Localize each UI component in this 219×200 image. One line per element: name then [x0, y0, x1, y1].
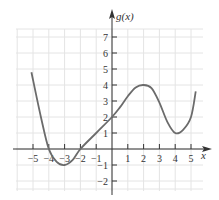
y-tick-label: −2 [97, 176, 108, 187]
y-tick-label: 5 [103, 64, 108, 75]
y-tick-label: 7 [103, 32, 108, 43]
grid [16, 29, 203, 191]
x-tick-label: 5 [189, 153, 194, 164]
y-tick-label: −1 [97, 160, 108, 171]
graph-of-g: −5−4−3−2−112345−2−11234567 g(x) x [0, 0, 219, 200]
x-axis-label: x [200, 149, 206, 161]
y-tick-label: 6 [103, 48, 108, 59]
x-tick-label: 2 [141, 153, 146, 164]
tick-labels: −5−4−3−2−112345−2−11234567 [28, 32, 194, 187]
x-tick-label: −5 [28, 153, 39, 164]
y-axis-label: g(x) [116, 10, 134, 23]
x-tick-label: 1 [125, 153, 130, 164]
g-curve [31, 72, 195, 165]
y-tick-label: 3 [103, 96, 108, 107]
x-tick-label: 4 [173, 153, 178, 164]
x-tick-label: 3 [157, 153, 162, 164]
y-tick-label: 4 [103, 80, 108, 91]
x-tick-label: −3 [59, 153, 70, 164]
x-tick-label: −4 [43, 153, 54, 164]
y-tick-label: 1 [103, 128, 108, 139]
